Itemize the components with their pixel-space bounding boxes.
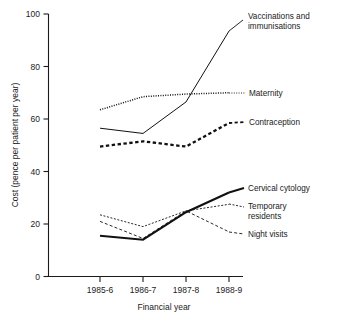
leader-night-visits [229, 232, 244, 234]
series-layer [100, 31, 229, 240]
series-label-maternity: Maternity [249, 89, 284, 98]
x-tick-label-1: 1986-7 [130, 285, 157, 295]
x-tick-labels: 1985-6 1986-7 1987-8 1988-9 [87, 285, 243, 295]
axes-group [44, 14, 244, 282]
series-label-contraception: Contraception [249, 118, 300, 127]
line-chart-figure: 100 80 60 40 20 0 1985-6 1986-7 1987-8 1… [0, 0, 340, 327]
series-label-temporary-residents-line2: residents [248, 212, 281, 221]
x-tick-label-0: 1985-6 [87, 285, 114, 295]
series-line-temporary-residents [100, 204, 229, 226]
series-label-night-visits: Night visits [248, 230, 288, 239]
series-line-contraception [100, 123, 229, 147]
series-label-temporary-residents-line1: Temporary [248, 202, 288, 211]
series-line-vaccinations-and-immunisations [100, 31, 229, 133]
y-tick-label-40: 40 [31, 167, 41, 177]
series-line-cervical-cytology [100, 193, 229, 240]
series-label-cervical-cytology: Cervical cytology [248, 184, 311, 193]
y-tick-marks [44, 14, 49, 277]
series-label-vaccinations-line1: Vaccinations and [248, 12, 310, 21]
y-tick-label-100: 100 [26, 9, 40, 19]
leader-temporary-residents [229, 204, 244, 207]
x-axis-title: Financial year [138, 302, 191, 312]
y-tick-label-20: 20 [31, 219, 41, 229]
x-tick-marks [100, 277, 229, 283]
chart-canvas: 100 80 60 40 20 0 1985-6 1986-7 1987-8 1… [0, 0, 340, 327]
x-tick-label-2: 1987-8 [173, 285, 200, 295]
leader-vaccinations [229, 20, 243, 31]
y-tick-label-80: 80 [31, 62, 41, 72]
leader-contraception [229, 122, 245, 123]
series-line-night-visits [100, 211, 229, 239]
y-tick-label-60: 60 [31, 114, 41, 124]
leader-cervical-cytology [229, 188, 244, 193]
y-axis-title: Cost (pence per patient per year) [10, 82, 20, 207]
y-tick-labels: 100 80 60 40 20 0 [26, 9, 40, 282]
series-label-vaccinations-line2: immunisations [248, 22, 300, 31]
series-line-maternity [100, 93, 229, 110]
series-labels: Vaccinations and immunisations Maternity… [248, 12, 311, 239]
x-tick-label-3: 1988-9 [216, 285, 243, 295]
y-tick-label-0: 0 [35, 272, 40, 282]
leader-lines [229, 20, 245, 234]
